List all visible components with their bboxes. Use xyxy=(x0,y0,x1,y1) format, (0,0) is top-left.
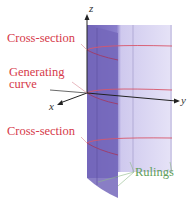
x-axis xyxy=(60,93,87,103)
z-axis-label: z xyxy=(89,2,93,14)
cross-section-label-bottom: Cross-section xyxy=(7,125,75,138)
x-axis-arrow-icon xyxy=(57,100,63,105)
leader-line xyxy=(81,137,87,143)
x-axis-back xyxy=(50,90,87,93)
generating-curve-label-line2: curve xyxy=(9,78,37,91)
leader-line xyxy=(72,82,87,93)
surface-front-face xyxy=(87,25,118,198)
y-axis-arrow-icon xyxy=(174,99,180,104)
cross-section-label-top: Cross-section xyxy=(7,32,75,45)
cylinder-diagram: z x y Cross-section Generating curve Cro… xyxy=(0,0,193,198)
rulings-label: Rulings xyxy=(135,166,174,179)
z-axis-arrow-icon xyxy=(85,14,90,20)
leader-line xyxy=(81,44,87,50)
y-axis-label: y xyxy=(181,94,186,106)
x-axis-label: x xyxy=(49,100,54,112)
